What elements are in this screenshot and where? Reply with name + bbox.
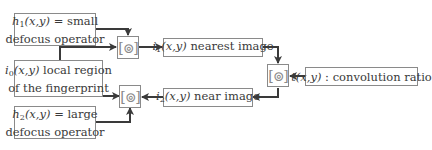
box-h1-line2: defocus operator: [5, 32, 104, 46]
box-i0-line2: of the fingerprint: [8, 81, 109, 95]
box-h1-small-defocus: h1(x,y) = small defocus operator: [14, 13, 96, 46]
box-h2-large-defocus: h2(x,y) = large defocus operator: [14, 106, 96, 139]
box-h2-line2: defocus operator: [5, 125, 104, 139]
arrow-h2-to-op2: [96, 108, 130, 122]
box-i0-local-region: i0(x,y) local region of the fingerprint: [14, 60, 103, 97]
arrow-i0-to-op1: [60, 47, 116, 60]
convolution-operator-icon: [⊚]: [120, 89, 140, 105]
ratio-operator-icon: [⊚]: [268, 68, 288, 84]
convolution-operator-top: [⊚]: [117, 36, 139, 59]
convolution-operator-bottom: [⊚]: [119, 85, 141, 108]
box-h1-line1: h1(x,y) = small: [12, 14, 98, 32]
box-t-convolution-ratio: t(x,y) : convolution ratio: [305, 67, 418, 86]
box-i2-near-image: i2(x,y) near image: [163, 88, 253, 107]
box-i0-line1: i0(x,y) local region: [5, 63, 112, 81]
convolution-operator-icon: [⊚]: [118, 40, 138, 56]
ratio-operator-right: [⊚]: [267, 64, 289, 87]
box-h2-line1: h2(x,y) = large: [12, 107, 97, 125]
box-i1-nearest-image: i1(x,y) nearest image: [163, 38, 263, 57]
